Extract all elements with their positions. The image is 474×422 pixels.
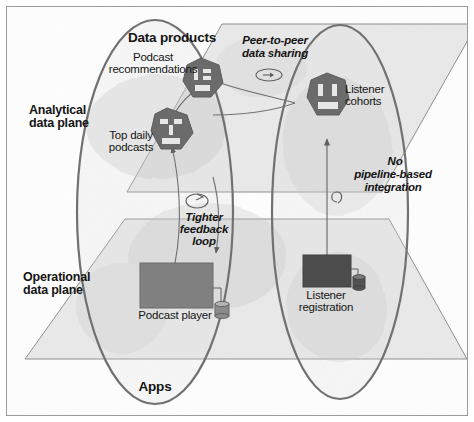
- operational-plane-label-line1: Operational: [23, 270, 123, 284]
- annotation-tighter-feedback-line1: Tighter: [167, 211, 241, 223]
- analytical-plane-label-line1: Analytical: [29, 103, 121, 117]
- label-listener-cohorts-line2: cohorts: [345, 95, 417, 107]
- annotation-no-pipeline-line1: No: [343, 155, 447, 167]
- label-podcast-recommendations-line1: Podcast: [103, 51, 203, 63]
- label-podcast-player: Podcast player: [127, 309, 223, 321]
- label-top-daily-podcasts-line2: podcasts: [93, 141, 169, 153]
- label-listener-cohorts-line1: Listener: [345, 83, 417, 95]
- diagram-page: Data products Podcast recommendations To…: [0, 0, 474, 422]
- annotation-tighter-feedback-line3: loop: [167, 235, 241, 247]
- label-listener-registration-line1: Listener: [293, 289, 359, 301]
- annotation-tighter-feedback-line2: feedback: [167, 223, 241, 235]
- data-products-header: Data products: [117, 31, 227, 46]
- diagram-frame: Data products Podcast recommendations To…: [6, 6, 468, 416]
- annotation-no-pipeline-line2: pipeline-based: [333, 168, 453, 180]
- analytical-plane-label-line2: data plane: [29, 116, 121, 130]
- label-podcast-recommendations-line2: recommendations: [85, 63, 221, 75]
- operational-plane-label-line2: data plane: [23, 283, 123, 297]
- annotation-peer-to-peer-line1: Peer-to-peer: [223, 34, 327, 46]
- label-top-daily-podcasts-line1: Top daily: [93, 129, 169, 141]
- annotation-no-pipeline-line3: integration: [339, 181, 447, 193]
- annotation-peer-to-peer-line2: data sharing: [223, 47, 327, 59]
- label-listener-registration-line2: registration: [289, 301, 363, 313]
- apps-header: Apps: [125, 380, 185, 395]
